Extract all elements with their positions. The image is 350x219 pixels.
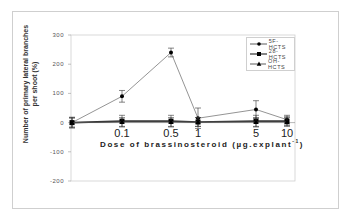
y-tick-label: 100 — [52, 90, 64, 96]
y-tick-label: -200 — [50, 178, 64, 184]
y-tick-label: -100 — [50, 149, 64, 155]
plot-area: 3002001000-100-2000.10.51510 — [0, 0, 350, 219]
y-tick-label: 300 — [52, 32, 64, 38]
triangle-marker-icon — [250, 60, 266, 68]
legend-item-5f-hcts: 5F-HCTS — [250, 40, 294, 48]
x-axis-label-sup: -1 — [292, 138, 300, 144]
circle-marker-icon — [250, 40, 267, 48]
x-axis-label-text: Dose of brassinosteroid (µg.explant — [100, 140, 292, 149]
y-axis-label-line1: Number of primary lateral branches — [21, 12, 30, 157]
data-point — [254, 107, 258, 111]
x-axis-label: Dose of brassinosteroid (µg.explant-1) — [100, 138, 304, 149]
x-axis-label-end: ) — [300, 140, 304, 149]
data-point — [169, 51, 173, 55]
y-axis-label-line2: per shoot (%) — [30, 12, 39, 157]
y-tick-label: 200 — [52, 61, 64, 67]
square-marker-icon — [250, 50, 267, 58]
y-tick-label: 0 — [60, 120, 64, 126]
legend-item-28-hcts: 28-HCTS — [250, 50, 294, 58]
legend: 5F-HCTS 28-HCTS OH-HCTS — [246, 37, 295, 71]
y-axis-label: Number of primary lateral branches per s… — [21, 12, 41, 157]
data-point — [120, 94, 124, 98]
legend-item-oh-hcts: OH-HCTS — [250, 60, 294, 68]
legend-label: OH-HCTS — [268, 58, 294, 70]
